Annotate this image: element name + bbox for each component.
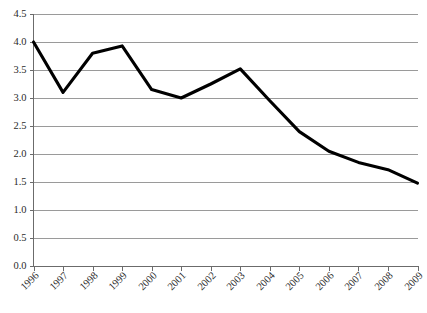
x-axis-tick-label: 2000 (136, 270, 159, 293)
y-axis-tick-label: 4.5 (13, 8, 26, 19)
x-axis-tick-label: 2002 (195, 270, 218, 293)
x-axis-tick-label: 2006 (313, 270, 336, 293)
x-axis-tick-label: 2004 (254, 269, 277, 292)
x-axis-tick-label: 2007 (342, 270, 365, 293)
x-axis-tick-label: 1999 (106, 270, 129, 293)
x-axis-tick-label: 1998 (77, 270, 100, 293)
y-axis-tick-label: 3.0 (13, 92, 26, 103)
y-axis-tick-label: 2.5 (13, 120, 26, 131)
x-axis-tick-label: 2001 (165, 270, 188, 293)
x-axis-tick-label: 2003 (224, 270, 247, 293)
y-axis-tick-label: 1.0 (13, 204, 26, 215)
x-axis-tick-labels-group: 1996199719981999200020012002200320042005… (18, 269, 425, 292)
x-axis-tick-label: 1996 (18, 270, 41, 293)
x-axis-tick-label: 1997 (47, 270, 70, 293)
chart-canvas: 0.00.51.01.52.02.53.03.54.04.5 199619971… (0, 0, 427, 313)
y-axis-tick-label: 0.0 (13, 260, 26, 271)
y-axis-tick-label: 1.5 (13, 176, 26, 187)
y-axis-tick-label: 4.0 (13, 36, 26, 47)
data-series-line (34, 42, 418, 183)
x-axis-tick-label: 2008 (372, 270, 395, 293)
gridlines-group (34, 15, 419, 239)
x-axis-tick-label: 2009 (402, 270, 425, 293)
x-axis-tick-label: 2005 (283, 270, 306, 293)
y-axis-tick-labels-group: 0.00.51.01.52.02.53.03.54.04.5 (13, 8, 26, 271)
line-chart: 0.00.51.01.52.02.53.03.54.04.5 199619971… (0, 0, 427, 313)
y-axis-tick-label: 0.5 (13, 232, 26, 243)
y-axis-tick-label: 2.0 (13, 148, 26, 159)
y-axis-tick-label: 3.5 (13, 64, 26, 75)
